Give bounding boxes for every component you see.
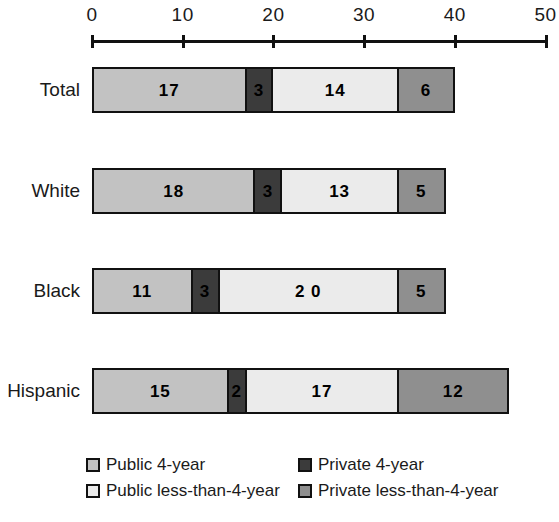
bar-segment-value: 5	[416, 183, 426, 200]
bar-segment-value: 2 0	[295, 283, 322, 300]
axis-tick-mark-0	[91, 35, 94, 48]
bar-segment: 17	[247, 370, 400, 412]
category-label-total: Total	[40, 79, 80, 101]
stacked-bar-chart: 01020304050 Total173146White183135Black1…	[0, 0, 559, 522]
bar-segment-value: 18	[163, 183, 184, 200]
bar-segment-value: 6	[421, 82, 431, 99]
chart-legend: Public 4-yearPrivate 4-yearPublic less-t…	[86, 452, 556, 504]
legend-item[interactable]: Public less-than-4-year	[86, 481, 298, 501]
x-axis: 01020304050	[0, 0, 559, 55]
bar-segment: 12	[399, 370, 507, 412]
legend-item[interactable]: Public 4-year	[86, 455, 298, 475]
bar-segment-value: 3	[200, 283, 210, 300]
bar-segment: 5	[399, 270, 444, 312]
bar-segment-value: 15	[150, 383, 171, 400]
axis-baseline	[92, 40, 546, 43]
bar-segment: 5	[399, 170, 444, 212]
stacked-bar: 173146	[92, 67, 455, 113]
axis-tick-mark-20	[272, 35, 275, 48]
axis-tick-label-10: 10	[172, 4, 194, 26]
stacked-bar: 1521712	[92, 368, 509, 414]
bar-segment-value: 17	[159, 82, 180, 99]
axis-tick-mark-40	[454, 35, 457, 48]
axis-tick-label-0: 0	[86, 4, 97, 26]
bar-segment: 11	[94, 270, 193, 312]
legend-label: Private less-than-4-year	[318, 481, 498, 501]
legend-label: Private 4-year	[318, 455, 424, 475]
legend-swatch-icon	[298, 458, 312, 472]
legend-item[interactable]: Private less-than-4-year	[298, 481, 556, 501]
bar-segment: 15	[94, 370, 229, 412]
bar-segment: 3	[193, 270, 220, 312]
bar-segment: 13	[282, 170, 399, 212]
bar-segment: 18	[94, 170, 255, 212]
bar-segment: 2 0	[220, 270, 399, 312]
legend-swatch-icon	[86, 484, 100, 498]
axis-tick-label-40: 40	[444, 4, 466, 26]
axis-tick-mark-10	[182, 35, 185, 48]
bar-segment-value: 13	[329, 183, 350, 200]
bar-segment: 3	[255, 170, 282, 212]
legend-label: Public less-than-4-year	[106, 481, 280, 501]
bar-segment-value: 14	[325, 82, 346, 99]
bar-segment-value: 3	[263, 183, 273, 200]
bar-segment-value: 5	[416, 283, 426, 300]
bar-segment-value: 11	[132, 283, 152, 300]
stacked-bar: 1132 05	[92, 268, 446, 314]
legend-label: Public 4-year	[106, 455, 205, 475]
axis-tick-label-30: 30	[353, 4, 375, 26]
bar-segment: 14	[273, 69, 399, 111]
bar-segment-value: 3	[254, 82, 264, 99]
axis-tick-mark-50	[545, 35, 548, 48]
legend-item[interactable]: Private 4-year	[298, 455, 556, 475]
stacked-bar: 183135	[92, 168, 446, 214]
bar-segment: 2	[229, 370, 247, 412]
bar-segment-value: 12	[443, 383, 464, 400]
legend-swatch-icon	[298, 484, 312, 498]
axis-tick-label-50: 50	[534, 4, 556, 26]
bar-segment: 6	[399, 69, 453, 111]
bar-segment: 3	[247, 69, 274, 111]
bar-segment: 17	[94, 69, 247, 111]
bar-segment-value: 17	[312, 383, 333, 400]
axis-tick-mark-30	[363, 35, 366, 48]
axis-tick-label-20: 20	[262, 4, 284, 26]
category-label-hispanic: Hispanic	[7, 380, 80, 402]
legend-swatch-icon	[86, 458, 100, 472]
category-label-black: Black	[34, 280, 80, 302]
category-label-white: White	[31, 180, 80, 202]
bar-segment-value: 2	[232, 383, 242, 400]
